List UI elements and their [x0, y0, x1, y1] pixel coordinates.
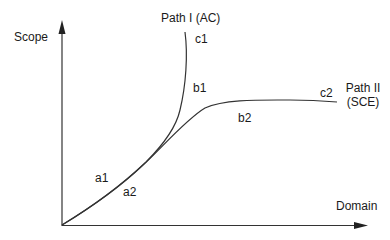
y-axis	[59, 20, 66, 226]
point-label-c2: c2	[320, 86, 333, 100]
path-2-label-line1: Path II	[343, 81, 383, 95]
point-label-a1: a1	[95, 171, 108, 185]
path-2-curve	[62, 100, 337, 225]
x-axis	[62, 222, 368, 229]
y-axis-arrow-icon	[59, 20, 66, 34]
path-2-label-line2: (SCE)	[343, 95, 383, 109]
point-label-c1: c1	[195, 32, 208, 46]
x-axis-label: Domain	[336, 199, 377, 213]
path-1-label: Path I (AC)	[161, 11, 220, 25]
path-2-label: Path II (SCE)	[343, 81, 383, 109]
point-label-b1: b1	[193, 81, 206, 95]
point-label-b2: b2	[238, 111, 251, 125]
x-axis-arrow-icon	[354, 222, 368, 229]
y-axis-label: Scope	[14, 30, 48, 44]
scope-domain-diagram: Scope Domain Path I (AC) Path II (SCE) c…	[0, 0, 390, 240]
point-label-a2: a2	[123, 185, 136, 199]
